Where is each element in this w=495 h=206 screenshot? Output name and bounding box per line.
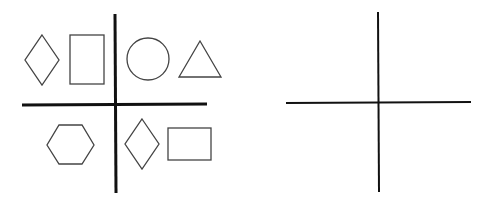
circle-shape <box>127 38 169 80</box>
quadrant-top-right <box>127 38 221 80</box>
quadrant-bottom-right <box>125 119 211 169</box>
hexagon-shape <box>47 125 94 164</box>
right-panel <box>286 12 471 192</box>
quadrant-bottom-left <box>47 125 94 164</box>
rectangle-shape <box>168 128 211 160</box>
diamond-shape <box>25 35 59 85</box>
quadrant-top-left <box>25 35 104 85</box>
rectangle-shape <box>70 35 104 84</box>
right-horizontal-axis <box>286 102 471 103</box>
figure-canvas <box>0 0 495 206</box>
left-horizontal-axis <box>22 104 207 105</box>
left-panel <box>22 14 221 193</box>
diamond-shape <box>125 119 159 169</box>
triangle-shape <box>179 41 221 77</box>
